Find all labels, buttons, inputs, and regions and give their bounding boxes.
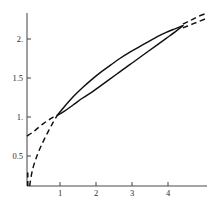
curve-upper-dashed-left — [27, 115, 57, 136]
curve-lower-dashed-right — [183, 19, 205, 28]
curve-upper-dashed-right — [183, 14, 205, 24]
y-tick-label-0-5: 0.5 — [12, 151, 23, 161]
x-tick-labels: 1 2 3 4 — [58, 188, 171, 198]
y-tick-labels: 2. 1.5 1. 0.5 — [12, 34, 23, 161]
plot-canvas: 2. 1.5 1. 0.5 1 2 3 4 — [0, 0, 213, 208]
curve-lower-dashed-left — [30, 115, 58, 186]
x-tick-label-1: 1 — [58, 188, 62, 198]
x-tick-marks — [60, 182, 168, 186]
x-tick-label-3: 3 — [130, 188, 134, 198]
figure-container: 2. 1.5 1. 0.5 1 2 3 4 — [0, 0, 213, 208]
x-tick-label-2: 2 — [94, 188, 98, 198]
x-tick-label-4: 4 — [166, 188, 171, 198]
y-tick-label-1-5: 1.5 — [12, 73, 23, 83]
curve-lower-solid — [57, 26, 182, 115]
y-tick-marks — [27, 39, 31, 156]
data-curves — [27, 14, 205, 186]
y-tick-label-2: 2. — [17, 34, 23, 44]
y-tick-label-1: 1. — [17, 112, 23, 122]
axes-group — [27, 13, 207, 186]
